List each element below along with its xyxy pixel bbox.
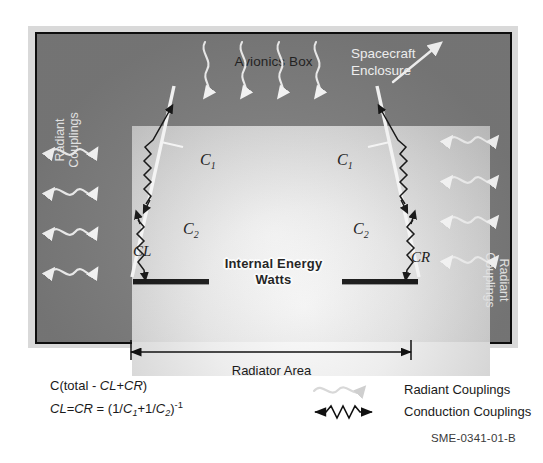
formula-series-exponent: -1 (175, 399, 183, 410)
formula-series-cl: CL (50, 401, 67, 416)
legend-item-radiant: Radiant Couplings (310, 378, 531, 400)
formula-line-total: C(total - CL+CR) (50, 377, 183, 396)
formula-total-cr: CR (124, 378, 143, 393)
legend-label-radiant: Radiant Couplings (404, 382, 510, 397)
formula-series-eq2: = (1/ (93, 401, 123, 416)
legend-item-conduction: Conduction Couplings (310, 400, 531, 422)
formula-total-cl: CL (100, 378, 117, 393)
formula-block: C(total - CL+CR) CL=CR = (1/C1+1/C2)-1 (50, 377, 183, 422)
formula-line-series: CL=CR = (1/C1+1/C2)-1 (50, 396, 183, 423)
formula-total-prefix: C(total - (50, 378, 100, 393)
formula-series-cr: CR (74, 401, 93, 416)
formula-series-mid: +1/ (137, 401, 155, 416)
formula-series-c2: C (156, 401, 165, 416)
conduction-coupling-symbol-icon (310, 401, 396, 421)
diagram-canvas: Avionics Box Internal Energy Watts Radia… (0, 0, 543, 463)
legend-label-conduction: Conduction Couplings (404, 404, 531, 419)
radiator-area-dimension (131, 340, 411, 360)
formula-total-plus: + (116, 378, 124, 393)
legend: Radiant Couplings Conduction Couplings (310, 378, 531, 422)
radiant-coupling-symbol-icon (310, 379, 396, 399)
formula-total-suffix: ) (143, 378, 147, 393)
radiator-area-label: Radiator Area (0, 363, 543, 378)
document-code-label: SME-0341-01-B (0, 432, 516, 444)
formula-series-c1: C (123, 401, 132, 416)
